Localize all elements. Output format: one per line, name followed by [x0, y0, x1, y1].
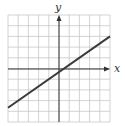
y-axis-arrow-icon — [57, 15, 62, 21]
y-axis-label: y — [55, 2, 61, 13]
x-axis-label: x — [114, 63, 120, 74]
x-axis-arrow-icon — [104, 67, 110, 72]
coordinate-plane — [0, 0, 125, 126]
